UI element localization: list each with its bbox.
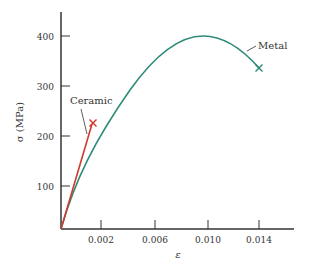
y-tick-label: 200	[37, 132, 54, 142]
y-tick-label: 100	[37, 182, 54, 192]
ceramic-fracture-marker-icon	[90, 120, 97, 127]
x-axis-title: ε	[175, 249, 180, 260]
ceramic-label: Ceramic	[70, 95, 113, 106]
metal-leader-line	[247, 46, 256, 51]
y-axis-title: σ (MPa)	[14, 102, 25, 142]
metal-curve	[61, 36, 259, 229]
x-tick-label: 0.006	[142, 235, 168, 245]
x-tick-label: 0.014	[246, 235, 272, 245]
x-tick-label: 0.002	[88, 235, 114, 245]
ceramic-line	[61, 124, 92, 229]
y-ticks	[61, 36, 70, 186]
stress-strain-chart: 400 300 200 100 0.002 0.006 0.010 0.014 …	[0, 0, 309, 269]
metal-fracture-marker-icon	[256, 65, 263, 72]
y-tick-label: 400	[37, 32, 54, 42]
ceramic-leader-line	[81, 109, 87, 134]
x-tick-label: 0.010	[195, 235, 221, 245]
y-tick-label: 300	[37, 82, 54, 92]
metal-label: Metal	[258, 40, 287, 51]
x-ticks	[101, 220, 259, 229]
